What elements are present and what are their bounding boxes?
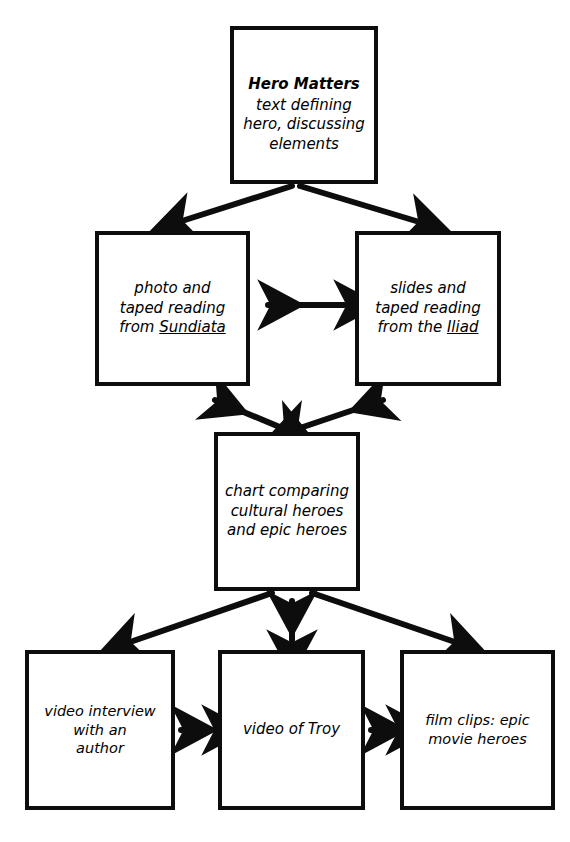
node-iliad[interactable]: slides and taped reading from the Iliad	[355, 231, 501, 386]
node-iliad-text: slides and taped reading from the Iliad	[369, 279, 486, 338]
connector-hero-to-iliad	[300, 186, 416, 221]
node-hero-matters-body: text defining hero, discussing elements	[243, 96, 365, 153]
node-iliad-title-underlined: Iliad	[447, 318, 478, 336]
connector-chart-to-filmclips	[312, 593, 452, 641]
node-sundiata[interactable]: photo and taped reading from Sundiata	[95, 231, 250, 386]
node-sundiata-title-underlined: Sundiata	[159, 318, 226, 336]
node-chart[interactable]: chart comparing cultural heroes and epic…	[214, 432, 360, 591]
connector-chart-to-interview	[133, 593, 272, 641]
node-hero-matters[interactable]: Hero Matterstext defining hero, discussi…	[230, 26, 378, 184]
node-hero-matters-title: Hero Matters	[243, 75, 365, 95]
node-hero-matters-text: Hero Matterstext defining hero, discussi…	[237, 56, 371, 155]
connector-sundiata-chart	[215, 400, 282, 428]
node-chart-text: chart comparing cultural heroes and epic…	[219, 482, 355, 541]
node-video-troy-text: video of Troy	[237, 720, 346, 740]
node-video-troy[interactable]: video of Troy	[218, 650, 365, 810]
node-film-clips-text: film clips: epic movie heroes	[419, 711, 536, 749]
connector-iliad-chart	[300, 400, 383, 428]
node-video-interview-text: video interview with an author	[38, 702, 161, 759]
node-video-interview[interactable]: video interview with an author	[25, 650, 175, 810]
diagram-canvas: Hero Matterstext defining hero, discussi…	[0, 0, 570, 842]
connector-hero-to-sundiata	[185, 186, 292, 220]
node-sundiata-text: photo and taped reading from Sundiata	[113, 279, 232, 338]
node-film-clips[interactable]: film clips: epic movie heroes	[400, 650, 555, 810]
